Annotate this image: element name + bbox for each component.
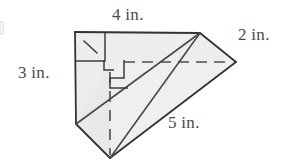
edge-left-3in — [75, 32, 76, 124]
dimension-label-left: 3 in. — [18, 64, 50, 81]
dimension-label-top: 4 in. — [112, 6, 144, 23]
scan-edge-artifact — [0, 22, 3, 34]
edge-top-4in — [75, 32, 200, 33]
geometry-figure: 4 in. 2 in. 3 in. 5 in. — [0, 0, 290, 163]
dimension-label-bottom: 5 in. — [168, 114, 200, 131]
dimension-label-right: 2 in. — [238, 26, 270, 43]
